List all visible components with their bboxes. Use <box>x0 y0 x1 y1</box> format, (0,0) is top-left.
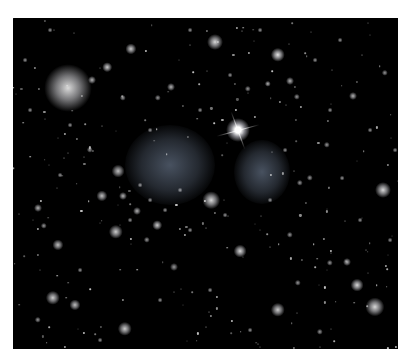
faint-star <box>56 275 58 277</box>
faint-star <box>216 296 218 298</box>
faint-star <box>324 286 326 288</box>
faint-star <box>296 312 297 313</box>
faint-star <box>353 302 355 304</box>
faint-star <box>335 301 337 303</box>
galaxy <box>41 223 47 229</box>
faint-star <box>42 335 44 337</box>
faint-star <box>376 284 378 286</box>
faint-star <box>361 55 362 56</box>
faint-star <box>206 228 207 229</box>
faint-star <box>64 132 66 134</box>
galaxy <box>188 228 193 233</box>
galaxy <box>297 180 303 186</box>
faint-star <box>181 289 182 290</box>
faint-star <box>327 120 329 122</box>
faint-star <box>179 59 180 60</box>
faint-star <box>258 343 259 344</box>
faint-star <box>68 282 70 284</box>
faint-star <box>101 220 103 222</box>
galaxy <box>119 192 127 200</box>
galaxy <box>258 28 263 33</box>
galaxy <box>88 76 96 84</box>
faint-star <box>395 346 397 348</box>
galaxy <box>324 142 330 148</box>
galaxy <box>148 198 153 203</box>
faint-star <box>370 35 371 36</box>
faint-star <box>46 342 48 344</box>
faint-star <box>197 332 199 334</box>
galaxy <box>23 58 28 63</box>
faint-star <box>317 142 319 144</box>
faint-star <box>29 156 31 158</box>
faint-star <box>387 347 389 349</box>
faint-star <box>173 291 174 292</box>
faint-star <box>179 228 181 230</box>
galaxy <box>34 204 42 212</box>
faint-star <box>345 221 346 222</box>
faint-star <box>331 70 332 71</box>
faint-star <box>145 120 147 122</box>
galaxy <box>228 73 233 78</box>
galaxy <box>340 176 345 181</box>
galaxy <box>317 329 323 335</box>
galaxy <box>338 38 343 43</box>
faint-star <box>311 31 312 32</box>
galaxy <box>118 322 132 336</box>
galaxy <box>68 123 73 128</box>
faint-star <box>296 140 298 142</box>
faint-star <box>221 155 223 157</box>
faint-star <box>243 256 244 257</box>
faint-star <box>278 243 280 245</box>
galaxy <box>286 77 294 85</box>
faint-star <box>216 307 218 309</box>
faint-star <box>260 347 261 348</box>
faint-star <box>192 71 194 73</box>
galaxy <box>198 108 203 113</box>
faint-star <box>305 202 307 204</box>
faint-star <box>83 163 85 165</box>
faint-star <box>267 233 269 235</box>
galaxy <box>167 83 175 91</box>
faint-star <box>221 119 223 121</box>
faint-star <box>254 41 255 42</box>
galaxy <box>265 81 271 87</box>
faint-star <box>202 222 204 224</box>
faint-star <box>199 83 201 85</box>
faint-star <box>227 216 228 217</box>
galaxy <box>133 207 141 215</box>
faint-star <box>117 204 118 205</box>
galaxy <box>271 48 285 62</box>
faint-star <box>54 29 55 30</box>
faint-star <box>99 326 101 328</box>
faint-star <box>64 346 66 348</box>
faint-star <box>182 105 184 107</box>
faint-star <box>319 346 320 347</box>
faint-star <box>361 218 362 219</box>
faint-star <box>299 214 301 216</box>
faint-star <box>363 151 365 153</box>
faint-star <box>331 103 332 104</box>
galaxy <box>207 34 223 50</box>
faint-star <box>327 208 328 209</box>
faint-star <box>345 260 346 261</box>
faint-star <box>369 243 371 245</box>
faint-star <box>304 53 306 55</box>
faint-star <box>74 32 75 33</box>
galaxy <box>138 183 143 188</box>
galaxy <box>375 182 391 198</box>
galaxy <box>295 280 301 286</box>
faint-star <box>88 200 90 202</box>
faint-star <box>306 55 308 57</box>
faint-star <box>333 341 335 343</box>
faint-star <box>67 85 69 87</box>
diffuse-glow <box>125 125 215 205</box>
faint-star <box>37 254 39 256</box>
faint-star <box>367 305 369 307</box>
galaxy <box>245 86 251 92</box>
faint-star <box>190 44 191 45</box>
faint-star <box>379 66 381 68</box>
galaxy <box>351 279 364 292</box>
faint-star <box>213 122 215 124</box>
galaxy <box>102 62 112 72</box>
faint-star <box>92 149 94 151</box>
